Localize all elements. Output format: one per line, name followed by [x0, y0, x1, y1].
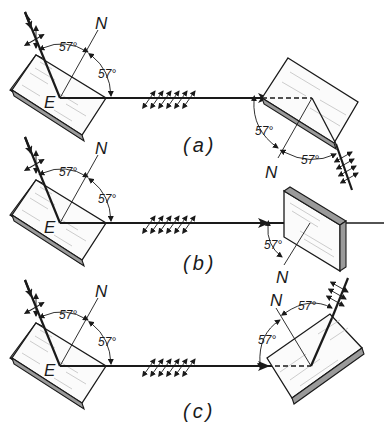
normal-label: N	[95, 14, 108, 33]
panel-c: N E 57° 57° (c) N	[10, 278, 364, 422]
brewster-angle-diagram: N E 57° 57° (a)	[0, 0, 392, 422]
angle-label-second-incidence: 57°	[264, 238, 282, 252]
normal-label: N	[270, 291, 283, 310]
angle-label-second-reflection: 57°	[298, 299, 316, 313]
panel-caption-c: (c)	[183, 400, 215, 422]
transmitted-ray	[336, 144, 352, 190]
normal-label: N	[265, 163, 278, 182]
normal-label: N	[276, 268, 289, 287]
angle-label-incidence: 57°	[59, 308, 77, 322]
angle-label-reflection: 57°	[98, 192, 116, 206]
point-label-e: E	[44, 361, 56, 380]
angle-label-second-incidence: 57°	[255, 124, 273, 138]
angle-label-incidence: 57°	[59, 165, 77, 179]
panel-a: N E 57° 57° (a)	[10, 12, 358, 190]
angle-label-second-reflection: 57°	[301, 153, 319, 167]
unpolarized-vibration-icon	[28, 30, 44, 48]
angle-label-incidence: 57°	[59, 40, 77, 54]
unpolarized-vibration-icon	[28, 155, 44, 173]
right-glass-plate	[267, 314, 364, 404]
right-glass-plate	[284, 187, 346, 271]
panel-b: N E 57° 57° (b) N 5	[10, 137, 384, 287]
angle-label-reflection: 57°	[98, 335, 116, 349]
point-label-e: E	[44, 218, 56, 237]
panel-caption-b: (b)	[183, 252, 216, 274]
angle-label-second-incidence: 57°	[258, 333, 276, 347]
unpolarized-vibration-icon	[28, 298, 44, 316]
panel-caption-a: (a)	[183, 134, 216, 156]
angle-label-reflection: 57°	[98, 67, 116, 81]
normal-label: N	[95, 282, 108, 301]
normal-label: N	[95, 139, 108, 158]
point-label-e: E	[44, 93, 56, 112]
right-glass-plate	[262, 58, 358, 149]
